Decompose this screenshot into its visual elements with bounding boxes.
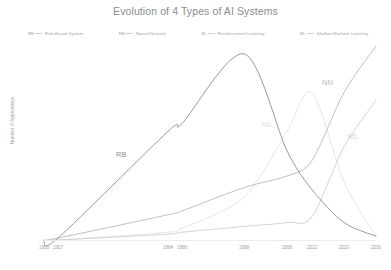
x-tick-label: 2020 <box>339 245 349 250</box>
legend-line-swatch-rl <box>208 33 215 34</box>
x-axis-line <box>44 240 376 241</box>
x-tick-label: 1986 <box>177 245 187 250</box>
legend-label-rb: Rule-Based System <box>45 31 84 37</box>
legend-item-neural-network[interactable]: NN Neural Network <box>119 31 166 37</box>
series-label-rb: RB <box>116 150 127 159</box>
series-lines <box>44 46 376 240</box>
series-label-nn: NN <box>322 78 333 87</box>
series-line-ml <box>44 91 376 240</box>
x-tick-label: 2012 <box>307 245 317 250</box>
series-label-ml: ML <box>262 120 273 129</box>
page-title: Evolution of 4 Types of AI Systems <box>0 5 391 17</box>
series-line-rl <box>44 100 376 240</box>
legend-label-nn: Neural Network <box>136 31 166 37</box>
x-tick-label: 2006 <box>282 245 292 250</box>
legend-item-shallow-machine-learning[interactable]: ML Shallow Machine Learning <box>300 31 368 37</box>
legend-label-ml: Shallow Machine Learning <box>316 31 368 37</box>
x-tick-label: 1984 <box>163 245 173 250</box>
legend-item-reinforcement-learning[interactable]: RL Reinforcement Learning <box>201 31 264 37</box>
x-tick-label: 1998 <box>239 245 249 250</box>
y-axis-title: Number of Applications <box>10 81 15 161</box>
legend-line-swatch-nn <box>126 33 133 34</box>
plot-area <box>44 46 376 240</box>
chart-legend: RB Rule-Based System NN Neural Network R… <box>28 28 368 39</box>
series-line-nn <box>44 46 376 240</box>
legend-line-swatch-ml <box>307 33 314 34</box>
series-label-rl: RL <box>348 132 358 141</box>
legend-key-rb: RB <box>28 31 34 37</box>
x-tick-label: 1957 <box>53 245 63 250</box>
chart-figure: Evolution of 4 Types of AI Systems RB Ru… <box>0 0 391 270</box>
legend-item-rule-based[interactable]: RB Rule-Based System <box>28 31 83 37</box>
legend-key-nn: NN <box>119 31 125 37</box>
x-tick-label: 1956 <box>39 245 49 250</box>
legend-key-ml: ML <box>300 31 306 37</box>
legend-label-rl: Reinforcement Learning <box>218 31 265 37</box>
x-tick-label: 2030 <box>371 245 381 250</box>
legend-line-swatch-rb <box>35 33 42 34</box>
legend-key-rl: RL <box>201 31 206 37</box>
